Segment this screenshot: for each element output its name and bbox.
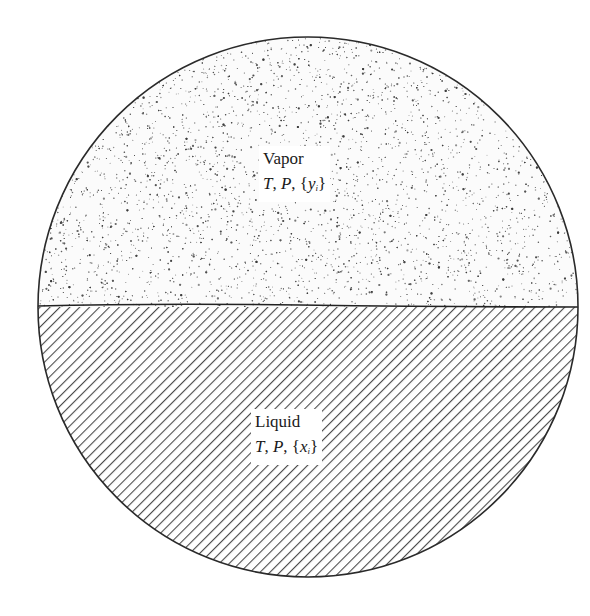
brace-close: } <box>318 174 326 193</box>
vapor-composition-var: y <box>308 174 316 193</box>
liquid-label: Liquid T, P, {xi} <box>251 409 322 465</box>
brace-close: } <box>310 437 318 456</box>
vapor-pressure-var: P <box>281 174 291 193</box>
vapor-title: Vapor <box>263 146 326 171</box>
brace-open: { <box>300 174 308 193</box>
vapor-label: Vapor T, P, {yi} <box>259 146 330 202</box>
liquid-title: Liquid <box>255 409 318 434</box>
vapor-state-variables: T, P, {yi} <box>263 171 326 201</box>
liquid-pressure-var: P <box>273 437 283 456</box>
separator: , <box>264 437 273 456</box>
separator: , <box>291 174 300 193</box>
vapor-liquid-diagram <box>0 0 590 616</box>
separator: , <box>283 437 292 456</box>
liquid-composition-var: x <box>300 437 308 456</box>
liquid-state-variables: T, P, {xi} <box>255 434 318 464</box>
separator: , <box>272 174 281 193</box>
brace-open: { <box>292 437 300 456</box>
